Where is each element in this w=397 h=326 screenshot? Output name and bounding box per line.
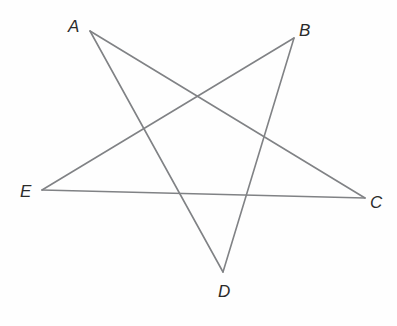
segment-A-C [90, 31, 365, 198]
segment-E-B [42, 38, 294, 190]
segment-B-D [223, 38, 294, 272]
vertex-label-C: C [370, 194, 382, 211]
vertex-label-A: A [68, 18, 79, 35]
star-edges [42, 31, 365, 272]
vertex-label-E: E [20, 183, 31, 200]
pentagram-drawing [0, 0, 397, 326]
vertex-label-B: B [299, 22, 310, 39]
segment-D-A [90, 31, 223, 272]
segment-C-E [42, 190, 365, 198]
geometry-figure-canvas: A B C D E [0, 0, 397, 326]
vertex-label-D: D [218, 283, 230, 300]
